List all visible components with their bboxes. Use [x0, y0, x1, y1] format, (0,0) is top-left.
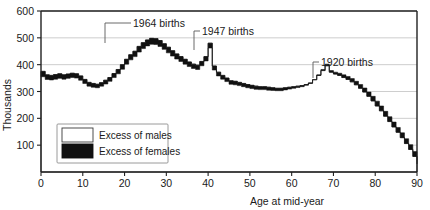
annotation-leader-line [105, 23, 131, 43]
annotation-1947-label: 1947 births [202, 25, 254, 37]
y-tick-label: 200 [16, 112, 34, 124]
x-tick-label: 40 [202, 177, 214, 189]
legend-label-males: Excess of males [99, 130, 172, 141]
y-tick-label: 500 [16, 32, 34, 44]
x-tick-label: 50 [244, 177, 256, 189]
x-tick-label: 10 [77, 177, 89, 189]
x-tick-label: 90 [411, 177, 423, 189]
x-tick-label: 0 [38, 177, 44, 189]
x-tick-label: 70 [328, 177, 340, 189]
legend-swatch-males [62, 128, 93, 142]
population-by-age-chart: 100200300400500600 0102030405060708090 T… [0, 0, 430, 210]
y-axis-ticks: 100200300400500600 [16, 5, 41, 151]
x-axis-title: Age at mid-year [250, 195, 325, 207]
chart-legend: Excess of males Excess of females [57, 124, 180, 163]
y-tick-label: 400 [16, 59, 34, 71]
annotation-1920-label: 1920 births [321, 56, 373, 68]
annotation-1964: 1964 births [105, 17, 185, 43]
y-tick-label: 300 [16, 86, 34, 98]
y-axis-title: Thousands [1, 79, 13, 131]
y-tick-label: 100 [16, 139, 34, 151]
legend-label-females: Excess of females [99, 146, 180, 157]
annotation-leader-line [194, 31, 200, 50]
x-tick-label: 30 [160, 177, 172, 189]
y-tick-label: 600 [16, 5, 34, 17]
x-tick-label: 60 [286, 177, 298, 189]
x-tick-label: 20 [119, 177, 131, 189]
x-tick-label: 80 [369, 177, 381, 189]
annotation-1964-label: 1964 births [133, 17, 185, 29]
x-axis-ticks: 0102030405060708090 [38, 172, 423, 189]
legend-swatch-females [62, 144, 93, 158]
